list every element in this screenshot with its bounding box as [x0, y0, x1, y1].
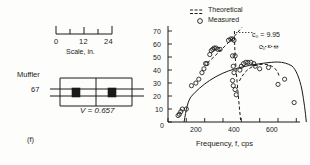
- chart-plot-area: [150, 0, 310, 130]
- y-axis-ticks: [168, 31, 172, 122]
- measured-point: [197, 77, 201, 81]
- measured-point: [258, 67, 262, 71]
- measured-point: [231, 64, 235, 68]
- measured-point: [232, 71, 236, 75]
- muffler-baffle-right: [108, 88, 116, 97]
- muffler-name-label: Muffler: [17, 71, 40, 79]
- measured-point: [202, 67, 206, 71]
- scale-caption: Scale, in.: [66, 48, 95, 55]
- figure-panel: 0 12 24 Scale, in. Muffler 67 V = 0.657: [0, 0, 310, 165]
- muffler-number-label: 67: [31, 86, 39, 94]
- scale-tick-0: 0: [54, 38, 58, 46]
- muffler-volume-label: V = 0.657: [80, 107, 114, 115]
- measured-point: [194, 81, 198, 85]
- measured-point: [230, 78, 234, 82]
- measured-point: [189, 84, 193, 88]
- measured-point: [283, 77, 287, 81]
- measured-point: [292, 100, 296, 104]
- measured-point: [266, 65, 270, 69]
- curve-theoretical-asymptote: [234, 31, 240, 120]
- scale-tick-12: 12: [79, 38, 88, 46]
- scale-tick-24: 24: [104, 38, 113, 46]
- measured-point: [233, 87, 237, 91]
- measured-point: [276, 82, 280, 86]
- x-axis-title: Frequency, f, cps: [196, 140, 253, 148]
- measured-point: [234, 93, 238, 97]
- measured-data-points: [176, 37, 296, 118]
- x-axis-ticks: [168, 118, 296, 122]
- figure-panel-label: (f): [27, 136, 34, 144]
- muffler-baffle-left: [72, 88, 80, 97]
